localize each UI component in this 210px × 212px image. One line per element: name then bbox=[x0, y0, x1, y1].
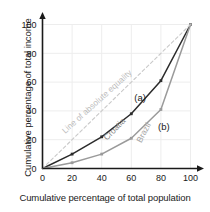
data-point-marker bbox=[130, 137, 133, 140]
tick-labels-group: 020406080100020406080100 bbox=[21, 20, 198, 183]
x-tick-label: 100 bbox=[183, 173, 198, 183]
x-axis-title: Cumulative percentage of total populatio… bbox=[0, 192, 210, 203]
x-tick-label: 80 bbox=[156, 173, 166, 183]
data-point-marker bbox=[130, 112, 133, 115]
annotation-a: (a) bbox=[134, 92, 146, 103]
x-tick-label: 40 bbox=[97, 173, 107, 183]
x-tick-label: 20 bbox=[67, 173, 77, 183]
x-axis-arrowhead bbox=[197, 165, 204, 171]
data-point-marker bbox=[100, 153, 103, 156]
y-axis-title: Cumulative percentage of total income bbox=[22, 9, 33, 187]
x-tick-label: 0 bbox=[40, 173, 45, 183]
y-axis-arrowhead bbox=[39, 12, 45, 19]
annotation-b: (b) bbox=[158, 121, 170, 132]
annotation-brazil: Brazil bbox=[134, 121, 153, 144]
x-tick-label: 60 bbox=[126, 173, 136, 183]
data-point-marker bbox=[71, 153, 74, 156]
annotations-group: Line of absolute equalityCroatiaBrazil(a… bbox=[60, 67, 170, 144]
series-layer bbox=[43, 23, 192, 168]
lorenz-curve-figure: 020406080100020406080100 Line of absolut… bbox=[0, 0, 210, 212]
data-point-marker bbox=[160, 79, 163, 82]
annotation-croatia: Croatia bbox=[101, 116, 127, 143]
data-point-marker bbox=[160, 108, 163, 111]
data-point-marker bbox=[71, 161, 74, 164]
